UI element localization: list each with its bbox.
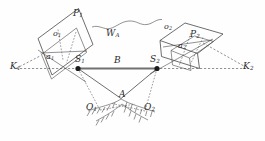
label-o2-small: o2 [164, 23, 172, 31]
dashed-cross-o1-a [100, 104, 135, 110]
terrain-hatch-lower [96, 107, 141, 126]
label-p1: P1 [73, 9, 83, 19]
label-o2-cap: O2 [144, 103, 155, 113]
sight-ray-left [78, 69, 121, 99]
label-k2: K2 [243, 62, 253, 72]
label-a1-small: a1 [46, 53, 54, 61]
station-marker-s1 [75, 66, 80, 71]
label-s1: S1 [75, 55, 85, 65]
right-plane-construction-lines [163, 33, 212, 66]
label-k1: K1 [10, 62, 20, 72]
label-wa: WA [106, 29, 119, 39]
label-point-a: A [119, 90, 126, 99]
label-s2: S2 [150, 55, 160, 65]
dashed-tail-right [203, 43, 244, 66]
label-o1-small: o1 [53, 30, 61, 38]
photogrammetry-diagram: .ln{fill:none;stroke:#3d3d3d;stroke-widt… [0, 0, 265, 141]
diagram-canvas: .ln{fill:none;stroke:#3d3d3d;stroke-widt… [0, 0, 265, 141]
left-image-plane-p1 [38, 9, 93, 76]
label-o1-cap: O1 [86, 103, 97, 113]
label-baseline-b: B [114, 56, 121, 65]
wavy-connector-wa [92, 19, 162, 28]
label-a2-small: a2 [178, 42, 186, 50]
station-marker-s2 [154, 66, 159, 71]
label-p2: P2 [190, 30, 200, 40]
